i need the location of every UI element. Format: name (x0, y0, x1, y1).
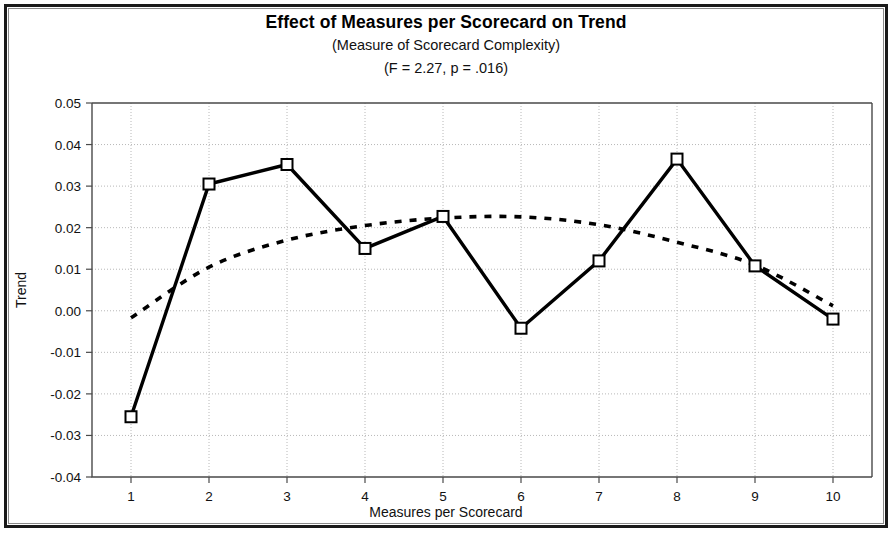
data-point-marker (126, 411, 137, 422)
y-tick-label: -0.02 (50, 387, 81, 402)
series-observed-trend (131, 159, 833, 417)
data-point-marker (516, 323, 527, 334)
x-tick-label: 9 (751, 489, 759, 504)
y-tick-labels-group: 0.050.040.030.020.010.00-0.01-0.02-0.03-… (50, 96, 81, 485)
data-point-marker (672, 154, 683, 165)
x-tick-label: 5 (439, 489, 447, 504)
observed-trend-line (131, 159, 833, 417)
y-tick-label: -0.03 (50, 428, 81, 443)
y-tick-label: 0.05 (55, 96, 81, 111)
y-tick-label: -0.01 (50, 345, 81, 360)
x-tick-labels-group: 12345678910 (127, 489, 840, 504)
x-gridlines-group (131, 103, 833, 477)
x-tick-label: 2 (205, 489, 213, 504)
tick-marks-group (86, 103, 833, 483)
plot-area: 0.050.040.030.020.010.00-0.01-0.02-0.03-… (0, 0, 892, 536)
y-tick-label: 0.04 (55, 138, 82, 153)
data-point-marker (282, 159, 293, 170)
x-tick-label: 1 (127, 489, 135, 504)
x-tick-label: 4 (361, 489, 369, 504)
figure-container: Effect of Measures per Scorecard on Tren… (0, 0, 892, 536)
x-tick-label: 6 (517, 489, 525, 504)
series-markers-group (126, 154, 839, 423)
y-axis-title: Trend (13, 272, 29, 308)
x-tick-label: 7 (595, 489, 603, 504)
series-fitted-trend (131, 216, 833, 317)
data-point-marker (750, 260, 761, 271)
data-point-marker (204, 179, 215, 190)
y-tick-label: 0.01 (55, 262, 81, 277)
y-tick-label: 0.00 (55, 304, 81, 319)
x-axis-title: Measures per Scorecard (369, 504, 522, 520)
y-tick-label: -0.04 (50, 470, 81, 485)
data-point-marker (594, 255, 605, 266)
x-tick-label: 10 (825, 489, 840, 504)
data-point-marker (438, 211, 449, 222)
y-tick-label: 0.02 (55, 221, 81, 236)
y-tick-label: 0.03 (55, 179, 81, 194)
x-tick-label: 8 (673, 489, 681, 504)
data-point-marker (828, 314, 839, 325)
x-tick-label: 3 (283, 489, 291, 504)
data-point-marker (360, 243, 371, 254)
fitted-trend-line (131, 216, 833, 317)
chart-svg: 0.050.040.030.020.010.00-0.01-0.02-0.03-… (0, 0, 892, 536)
